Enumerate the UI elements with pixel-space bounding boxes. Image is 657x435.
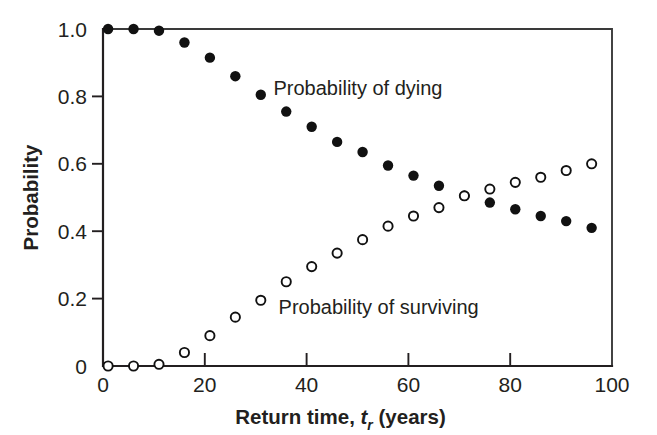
scatter-chart: 00.20.40.60.81.0 020406080100 Probabilit… xyxy=(0,0,657,435)
x-tick-label-80: 80 xyxy=(499,373,522,396)
x-axis-title: Return time, tr (years) xyxy=(235,405,446,433)
data-point xyxy=(306,122,316,132)
data-point xyxy=(307,262,316,271)
y-axis-title-label: Probability xyxy=(19,144,42,251)
data-point xyxy=(256,90,266,100)
data-point xyxy=(333,249,342,258)
series-probability-of-surviving xyxy=(103,159,596,370)
y-tick-label-0.8: 0.8 xyxy=(58,85,87,108)
y-tick-label-0: 0 xyxy=(75,355,87,378)
series-probability-of-dying xyxy=(103,24,597,233)
data-point xyxy=(256,296,265,305)
x-axis-title-lead: Return time, xyxy=(235,405,360,428)
y-axis-title: Probability xyxy=(19,144,42,251)
data-point xyxy=(587,159,596,168)
x-tick-label-100: 100 xyxy=(594,373,629,396)
data-point xyxy=(434,203,443,212)
annotation-probability-of-surviving: Probability of surviving xyxy=(279,296,479,318)
data-point xyxy=(103,24,113,34)
data-point xyxy=(408,170,418,180)
x-tick-label-20: 20 xyxy=(193,373,216,396)
x-axis-title-trail: (years) xyxy=(373,405,446,428)
data-point xyxy=(434,181,444,191)
data-point xyxy=(383,222,392,231)
data-point xyxy=(230,71,240,81)
x-tick-label-0: 0 xyxy=(97,373,109,396)
data-point xyxy=(536,173,545,182)
y-axis-ticks xyxy=(92,96,103,298)
data-point xyxy=(180,348,189,357)
annotation-probability-of-dying: Probability of dying xyxy=(274,77,443,99)
data-point xyxy=(129,361,138,370)
data-point xyxy=(281,106,291,116)
data-point xyxy=(179,37,189,47)
data-point xyxy=(205,52,215,62)
data-point xyxy=(103,361,112,370)
data-point xyxy=(205,331,214,340)
x-tick-label-40: 40 xyxy=(295,373,318,396)
figure-container: 00.20.40.60.81.0 020406080100 Probabilit… xyxy=(0,0,657,435)
x-tick-label-60: 60 xyxy=(397,373,420,396)
y-tick-label-0.6: 0.6 xyxy=(58,152,87,175)
data-point xyxy=(358,235,367,244)
data-point xyxy=(231,313,240,322)
data-point xyxy=(586,223,596,233)
x-axis-tick-labels: 020406080100 xyxy=(97,373,629,396)
data-point xyxy=(154,25,164,35)
data-point xyxy=(357,147,367,157)
x-axis-title-label: Return time, tr (years) xyxy=(235,405,446,433)
y-tick-label-1.0: 1.0 xyxy=(58,18,87,41)
data-point xyxy=(510,204,520,214)
data-point xyxy=(128,24,138,34)
data-point xyxy=(561,216,571,226)
x-axis-ticks xyxy=(205,353,510,366)
data-point xyxy=(460,191,469,200)
data-point xyxy=(536,211,546,221)
data-point xyxy=(409,211,418,220)
data-point xyxy=(485,197,495,207)
y-tick-label-0.4: 0.4 xyxy=(58,220,88,243)
data-point xyxy=(485,184,494,193)
y-tick-label-0.2: 0.2 xyxy=(58,287,87,310)
series-annotations: Probability of dyingProbability of survi… xyxy=(274,77,479,318)
data-point xyxy=(511,178,520,187)
data-point xyxy=(154,360,163,369)
data-point xyxy=(383,160,393,170)
y-axis-tick-labels: 00.20.40.60.81.0 xyxy=(58,18,88,378)
data-point xyxy=(282,277,291,286)
data-point xyxy=(332,137,342,147)
data-point xyxy=(562,166,571,175)
